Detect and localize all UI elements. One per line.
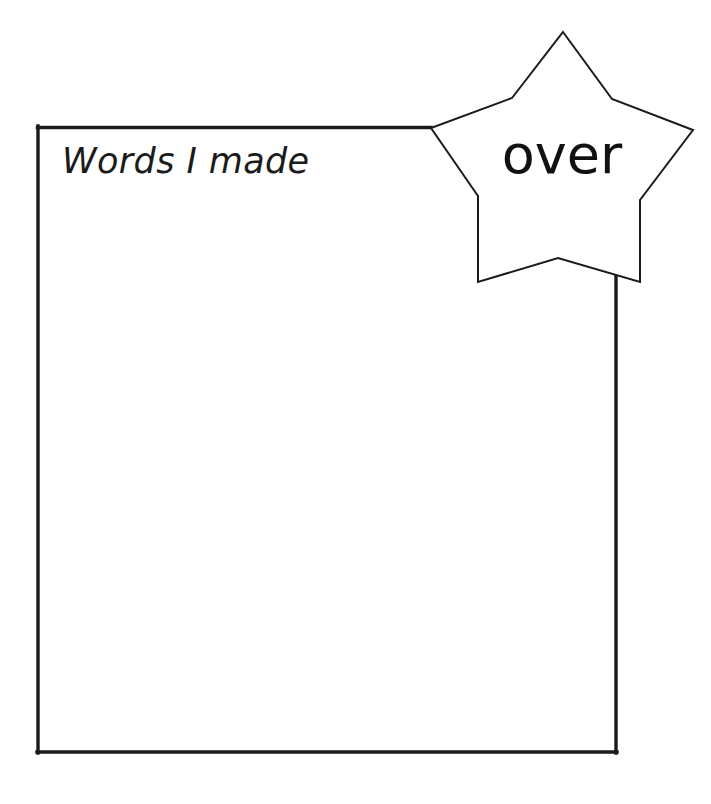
list-box-heading: Words I made [62, 144, 310, 179]
star-word-label: over [431, 128, 693, 182]
worksheet-page: Words I made over [0, 0, 711, 804]
worksheet-drawing [0, 0, 711, 804]
